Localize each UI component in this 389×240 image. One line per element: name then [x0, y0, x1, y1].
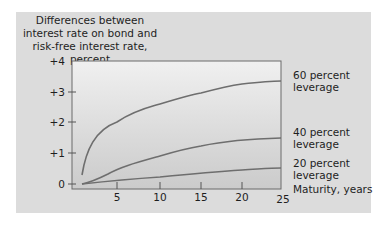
- x-tick-label: 15: [194, 191, 207, 203]
- x-tick-label: 10: [153, 191, 166, 203]
- x-tick-label: 20: [235, 191, 248, 203]
- legend-60-line-1: 60 percent: [293, 69, 350, 81]
- x-tick-label: 5: [114, 191, 121, 203]
- legend-20-line-2: leverage: [293, 169, 350, 181]
- legend-40-percent: 40 percent leverage: [293, 126, 350, 150]
- legend-20-percent: 20 percent leverage: [293, 157, 350, 181]
- legend-60-line-2: leverage: [293, 81, 350, 93]
- y-tick-label: 0: [58, 178, 65, 190]
- y-tick-label: +2: [50, 116, 65, 128]
- y-tick-label: +4: [50, 55, 66, 67]
- x-axis-label: Maturity, years: [293, 183, 372, 195]
- legend-60-percent: 60 percent leverage: [293, 69, 350, 93]
- legend-40-line-2: leverage: [293, 138, 350, 150]
- y-tick-label: +3: [50, 86, 65, 98]
- y-tick-label: +1: [50, 147, 65, 159]
- legend-20-line-1: 20 percent: [293, 157, 350, 169]
- legend-40-line-1: 40 percent: [293, 126, 350, 138]
- x-tick-label: 25: [276, 193, 289, 205]
